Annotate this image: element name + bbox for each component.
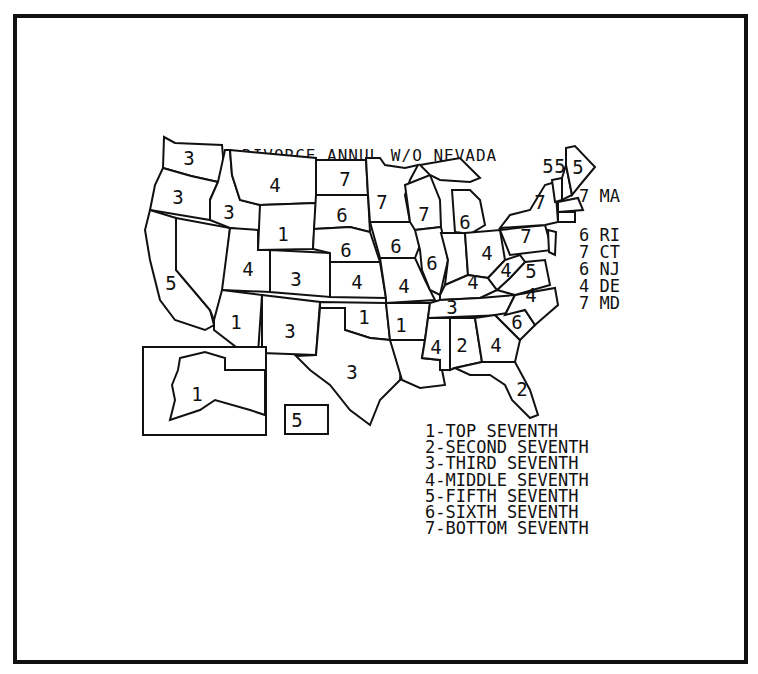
us-map: 3 3 5 3 4 1 4 3 1 3 7 6 6 4 1 3 7 6 4 1 …	[0, 0, 758, 674]
label-ny: 7	[534, 191, 545, 213]
label-mi: 6	[459, 211, 470, 233]
label-co: 3	[290, 268, 301, 290]
label-az: 1	[230, 311, 241, 333]
label-or: 3	[172, 186, 183, 208]
label-nc: 4	[525, 284, 536, 306]
label-id: 3	[223, 201, 234, 223]
legend: 1-TOP SEVENTH 2-SECOND SEVENTH 3-THIRD S…	[425, 423, 589, 536]
label-wv: 4	[500, 259, 511, 281]
label-ar: 1	[395, 314, 406, 336]
side-label-ma: 7 MA	[579, 188, 620, 205]
label-ne: 6	[340, 239, 351, 261]
label-hi: 5	[291, 409, 302, 431]
label-nm: 3	[284, 320, 295, 342]
label-nd: 7	[339, 168, 350, 190]
label-tn: 3	[446, 296, 457, 318]
label-ak: 1	[191, 383, 202, 405]
label-ia: 6	[390, 235, 401, 257]
state-vt	[552, 178, 562, 202]
label-il: 6	[426, 252, 437, 274]
label-ut: 4	[242, 258, 253, 280]
label-ga: 4	[490, 334, 501, 356]
label-mt: 4	[269, 174, 280, 196]
label-wi: 7	[418, 203, 429, 225]
label-ca: 5	[165, 272, 176, 294]
state-nj	[548, 230, 556, 255]
label-oh: 4	[481, 242, 492, 264]
label-vt: 5	[542, 155, 553, 177]
label-fl: 2	[516, 378, 527, 400]
legend-item: 7-BOTTOM SEVENTH	[425, 520, 589, 536]
label-nh: 5	[554, 155, 565, 177]
state-ar	[386, 303, 430, 340]
label-pa: 7	[520, 225, 531, 247]
label-sc: 6	[511, 311, 522, 333]
label-wy: 1	[277, 223, 288, 245]
label-mo: 4	[398, 275, 409, 297]
label-al: 2	[456, 334, 467, 356]
label-ky: 4	[467, 271, 478, 293]
state-ny	[500, 182, 558, 228]
label-sd: 6	[336, 204, 347, 226]
label-wa: 3	[183, 147, 194, 169]
label-ms: 4	[430, 336, 441, 358]
label-ks: 4	[351, 271, 362, 293]
state-ct	[558, 212, 575, 222]
label-me: 5	[572, 156, 583, 178]
side-label-md: 7 MD	[579, 295, 620, 312]
label-tx: 3	[346, 361, 357, 383]
label-va: 5	[525, 260, 536, 282]
label-ok: 1	[358, 306, 369, 328]
label-mn: 7	[376, 191, 387, 213]
